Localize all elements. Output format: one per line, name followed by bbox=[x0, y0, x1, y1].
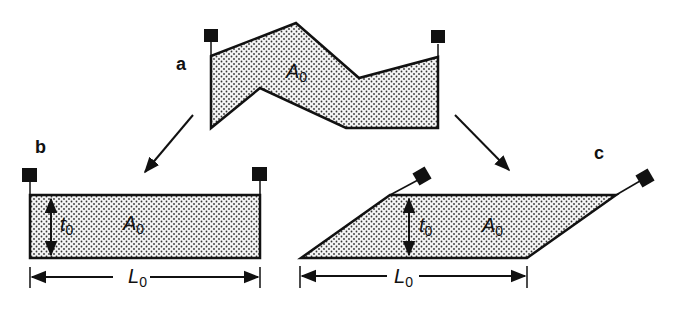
area-label-b: A0 bbox=[123, 212, 144, 237]
clamp-icon bbox=[252, 167, 267, 181]
clamp-icon bbox=[412, 166, 431, 185]
length-label-b: L0 bbox=[128, 265, 147, 290]
panel-label-c: c bbox=[594, 143, 604, 164]
panel-a-shape bbox=[204, 23, 445, 128]
panel-label-b: b bbox=[35, 137, 46, 158]
clamp-icon bbox=[22, 168, 37, 182]
arrow-to-c-icon bbox=[455, 115, 509, 170]
diagram-canvas bbox=[0, 0, 674, 314]
thickness-label-b: t0 bbox=[60, 213, 73, 238]
area-label-c: A0 bbox=[482, 214, 503, 239]
panel-label-a: a bbox=[176, 54, 186, 75]
clamp-icon bbox=[204, 29, 218, 42]
area-label-a: A0 bbox=[286, 60, 307, 85]
length-label-c: L0 bbox=[394, 265, 413, 290]
clamp-icon bbox=[635, 168, 654, 187]
arrow-to-b-icon bbox=[145, 115, 193, 172]
panel-c-shape bbox=[300, 166, 655, 288]
thickness-label-c: t0 bbox=[419, 214, 432, 239]
clamp-icon bbox=[431, 30, 445, 43]
